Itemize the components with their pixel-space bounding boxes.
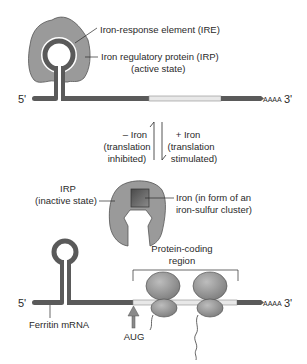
ribosome-2 xyxy=(193,272,227,360)
poly-a-tail-top: AAAA xyxy=(263,96,282,103)
coding-region-top xyxy=(149,96,221,101)
irp-active-state-label: (active state) xyxy=(131,63,185,74)
ire-loop xyxy=(45,41,73,69)
irp-inactive-state-label: (inactive state) xyxy=(35,195,97,206)
irp-inactive-label: IRP xyxy=(60,183,76,194)
top-panel: 5' AAAA 3' Iron-response element (IRE) I… xyxy=(18,17,292,105)
coding-region-label: Protein-coding xyxy=(151,243,212,254)
iron-cluster-label: Iron (in form of an xyxy=(176,192,251,203)
aug-arrow-icon xyxy=(128,306,139,328)
ferritin-mrna-label: Ferritin mRNA xyxy=(29,319,90,330)
five-prime-label-bottom: 5' xyxy=(18,297,26,309)
bottom-panel: 5' AAAA 3' Protein-coding region Ferriti… xyxy=(18,241,292,360)
irp-active-label: Iron regulatory protein (IRP) xyxy=(101,51,219,62)
transition-arrows: – Iron (translation inhibited) + Iron (t… xyxy=(104,122,218,164)
iron-cluster-label-2: iron-sulfur cluster) xyxy=(176,204,252,215)
mrna-5utr xyxy=(32,96,58,101)
plus-iron-label: + Iron xyxy=(176,129,201,140)
plus-iron-sub1: (translation xyxy=(168,141,215,152)
minus-iron-sub1: (translation xyxy=(104,141,151,152)
minus-iron-label: – Iron xyxy=(123,129,147,140)
nascent-polypeptide xyxy=(195,315,198,360)
plus-iron-sub2: stimulated) xyxy=(171,153,217,164)
ire-label: Iron-response element (IRE) xyxy=(100,24,220,35)
middle-panel: IRP (inactive state) Iron (in form of an… xyxy=(35,181,252,246)
three-prime-label-top: 3' xyxy=(284,93,292,105)
three-prime-label-bottom: 3' xyxy=(284,297,292,309)
poly-a-tail-bottom: AAAA xyxy=(263,300,282,307)
ire-loop-free xyxy=(54,241,76,263)
aug-start-codon-label: AUG xyxy=(124,331,145,342)
iron-regulation-diagram: 5' AAAA 3' Iron-response element (IRE) I… xyxy=(0,0,307,364)
five-prime-label-top: 5' xyxy=(18,93,26,105)
minus-iron-sub2: inhibited) xyxy=(108,153,147,164)
coding-region-label-2: region xyxy=(169,255,195,266)
